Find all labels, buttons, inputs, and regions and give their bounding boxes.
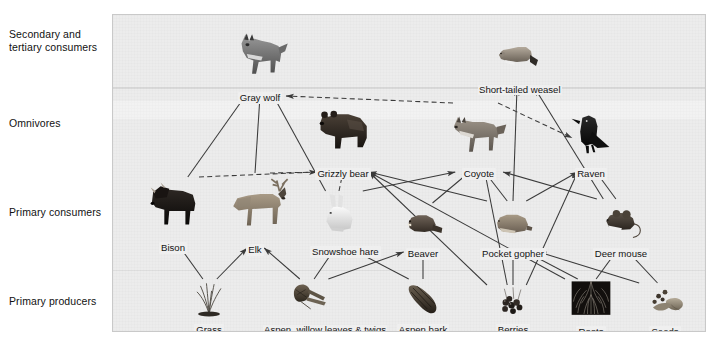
tier-label-primary-producers: Primary producers — [9, 295, 96, 308]
node-label-bison: Bison — [159, 242, 187, 254]
node-label-elk: Elk — [246, 244, 263, 256]
gray-wolf-illustration — [214, 21, 306, 87]
seeds-illustration — [637, 281, 693, 321]
elk-illustration — [209, 171, 301, 239]
beaver-illustration — [389, 201, 457, 243]
node-label-raven: Raven — [575, 168, 607, 180]
node-gray-wolf[interactable]: Gray wolf — [214, 21, 306, 105]
node-label-deer-mouse: Deer mouse — [593, 248, 649, 260]
aspen-willow-illustration — [263, 277, 355, 319]
node-label-aspen-bark: Aspen bark — [397, 324, 450, 332]
arrow-bison-to-gray-wolf — [188, 96, 245, 177]
deer-mouse-illustration — [584, 197, 658, 243]
node-aspen-bark[interactable]: Aspen bark — [394, 277, 452, 332]
pocket-gopher-illustration — [473, 199, 553, 243]
node-label-roots: Roots — [576, 326, 605, 332]
bison-illustration — [128, 175, 218, 237]
coyote-illustration — [427, 101, 531, 163]
node-short-tailed-weasel[interactable]: Short-tailed weasel — [478, 29, 556, 97]
node-aspen-willow[interactable]: Aspen, willow leaves & twigs — [263, 277, 355, 332]
node-roots[interactable]: Roots — [565, 277, 617, 332]
food-web-panel: Gray wolfShort-tailed weaselGrizzly bear… — [112, 14, 706, 332]
node-coyote[interactable]: Coyote — [427, 101, 531, 181]
node-label-gray-wolf: Gray wolf — [238, 92, 283, 104]
node-grizzly-bear[interactable]: Grizzly bear — [284, 97, 402, 181]
node-label-beaver: Beaver — [406, 248, 440, 260]
aspen-bark-illustration — [394, 277, 452, 319]
node-label-pocket-gopher: Pocket gopher — [480, 248, 546, 260]
arrow-elk-to-gray-wolf — [255, 96, 260, 173]
node-label-short-tailed-weasel: Short-tailed weasel — [478, 85, 562, 95]
berries-illustration — [487, 283, 539, 319]
node-label-grizzly-bear: Grizzly bear — [315, 168, 370, 180]
grizzly-bear-illustration — [284, 97, 402, 163]
snowshoe-hare-illustration — [310, 189, 368, 241]
node-label-coyote: Coyote — [462, 168, 496, 180]
node-label-berries: Berries — [496, 324, 530, 332]
food-web-figure: Secondary and tertiary consumersOmnivore… — [0, 0, 712, 345]
raven-illustration — [564, 107, 618, 163]
short-tailed-weasel-illustration — [478, 29, 556, 79]
node-deer-mouse[interactable]: Deer mouse — [584, 197, 658, 261]
node-seeds[interactable]: Seeds — [637, 281, 693, 332]
node-pocket-gopher[interactable]: Pocket gopher — [473, 199, 553, 261]
node-label-grass: Grass — [194, 324, 224, 332]
roots-illustration — [565, 277, 617, 321]
node-raven[interactable]: Raven — [564, 107, 618, 181]
node-bison[interactable]: Bison — [128, 175, 218, 255]
grass-illustration — [181, 277, 237, 319]
tier-label-secondary-tertiary: Secondary and tertiary consumers — [9, 28, 97, 53]
node-grass[interactable]: Grass — [181, 277, 237, 332]
tier-label-omnivores: Omnivores — [9, 117, 61, 130]
node-berries[interactable]: Berries — [487, 283, 539, 332]
node-label-snowshoe-hare: Snowshoe hare — [310, 246, 381, 258]
node-label-seeds: Seeds — [649, 326, 680, 332]
node-label-aspen-willow: Aspen, willow leaves & twigs — [263, 325, 387, 332]
node-elk[interactable]: Elk — [209, 171, 301, 257]
node-snowshoe-hare[interactable]: Snowshoe hare — [310, 189, 368, 259]
node-beaver[interactable]: Beaver — [389, 201, 457, 261]
tier-label-primary-consumers: Primary consumers — [9, 206, 101, 219]
